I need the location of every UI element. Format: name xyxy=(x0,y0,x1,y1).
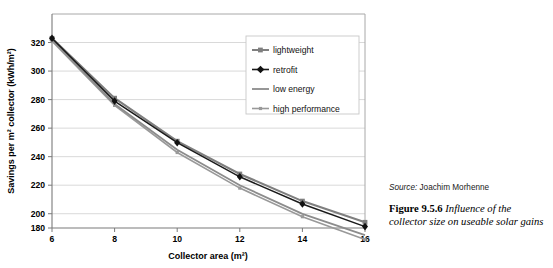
y-tick-label: 320 xyxy=(31,38,46,48)
y-tick-label: 220 xyxy=(31,180,46,190)
legend-label: retrofit xyxy=(273,65,298,75)
y-tick-label: 180 xyxy=(31,223,46,233)
y-axis-title: Savings per m² collector (kWh/m²) xyxy=(6,48,16,194)
chart-legend: lightweight retrofit low energy high per… xyxy=(246,36,359,114)
x-tick-label: 14 xyxy=(298,234,308,244)
legend-label: low energy xyxy=(273,84,315,94)
y-tick-marks xyxy=(48,43,52,228)
x-tick-label: 10 xyxy=(172,234,182,244)
legend-label: lightweight xyxy=(273,45,314,55)
source-name: Joachim Morhenne xyxy=(417,183,489,192)
source-line: Source: Joachim Morhenne xyxy=(389,182,549,193)
figure-number: Figure 9.5.6 xyxy=(389,203,443,214)
y-tick-label: 240 xyxy=(31,152,46,162)
x-tick-label: 6 xyxy=(50,234,55,244)
legend-marker-square-icon xyxy=(258,48,263,53)
source-label: Source: xyxy=(389,183,417,192)
x-tick-marks xyxy=(52,228,365,232)
x-tick-label: 8 xyxy=(112,234,117,244)
y-tick-label: 300 xyxy=(31,66,46,76)
line-chart: 180 200 220 240 260 280 300 320 6 8 10 1… xyxy=(0,0,385,268)
legend-marker-small-square-icon xyxy=(259,107,262,110)
y-tick-label: 280 xyxy=(31,95,46,105)
y-tick-label: 260 xyxy=(31,123,46,133)
y-tick-labels: 180 200 220 240 260 280 300 320 xyxy=(31,38,46,234)
chart-figure: 180 200 220 240 260 280 300 320 6 8 10 1… xyxy=(0,0,385,268)
x-tick-labels: 6 8 10 12 14 16 xyxy=(50,234,370,244)
caption-block: Source: Joachim Morhenne Figure 9.5.6 In… xyxy=(389,182,549,228)
y-tick-label: 200 xyxy=(31,209,46,219)
x-tick-label: 12 xyxy=(235,234,245,244)
figure-caption: Figure 9.5.6 Influence of the collector … xyxy=(389,202,549,228)
x-axis-title: Collector area (m²) xyxy=(168,251,248,261)
legend-label: high performance xyxy=(273,104,340,114)
